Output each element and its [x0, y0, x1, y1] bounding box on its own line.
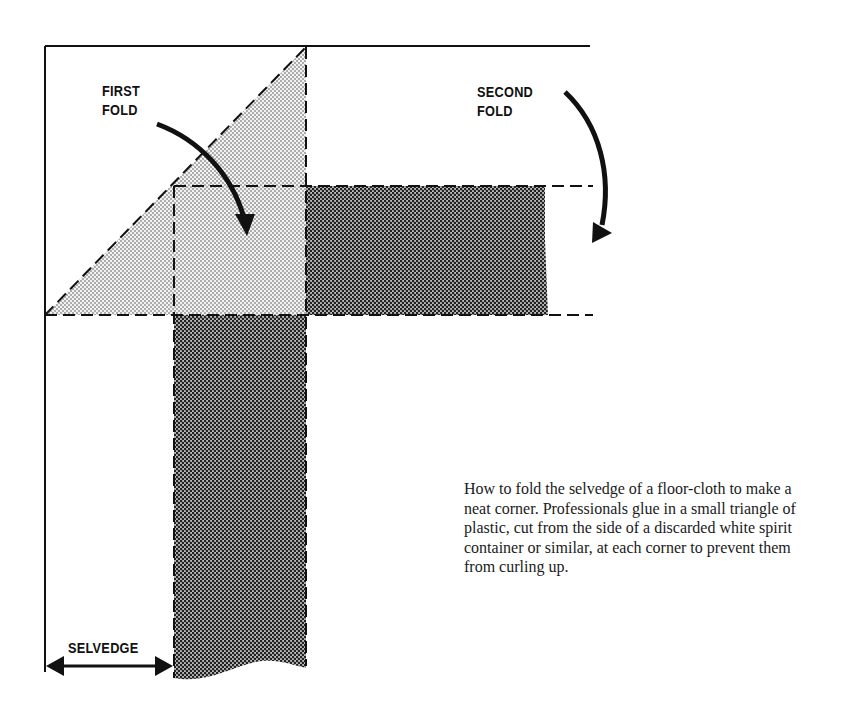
selvedge-label: SELVEDGE	[68, 638, 139, 657]
second-fold-arrow-icon	[565, 92, 605, 225]
first-fold-label: FIRST FOLD	[102, 81, 140, 119]
vertical-selvedge-strip	[174, 315, 306, 679]
selvedge-arrow-left-icon	[46, 656, 64, 676]
second-fold-label: SECOND FOLD	[477, 82, 533, 120]
fold-diagram: FIRST FOLD SECOND FOLD SELVEDGE How to f…	[0, 0, 849, 721]
figure-caption: How to fold the selvedge of a floor-clot…	[464, 479, 804, 577]
horizontal-selvedge-strip	[306, 186, 548, 315]
selvedge-arrow-right-icon	[155, 656, 173, 676]
